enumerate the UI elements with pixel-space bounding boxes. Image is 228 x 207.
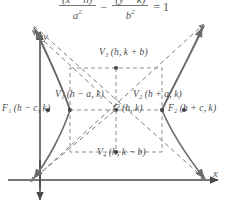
label-vertex-left: V₁ (h − a, k): [55, 89, 104, 99]
hyperbola-right-branch: [162, 26, 204, 178]
label-center: C (h, k): [113, 103, 143, 113]
asymptote-positive-slope-lower: [30, 106, 120, 182]
x-axis-label: x: [213, 167, 218, 179]
label-vertex-right: V₂ (h + a, k): [133, 89, 182, 99]
y-axis-label: y: [43, 30, 48, 42]
label-covertex-top: V₃ (h, k + b): [99, 47, 148, 57]
label-covertex-bottom: V₄ (h, k − b): [97, 147, 146, 157]
hyperbola-figure: (x − h) a2 − (y − k) b2 = 1: [0, 0, 228, 207]
label-focus-right: F₂ (h + c, k): [168, 103, 216, 113]
label-focus-left: F₁ (h − c, k): [2, 103, 50, 113]
